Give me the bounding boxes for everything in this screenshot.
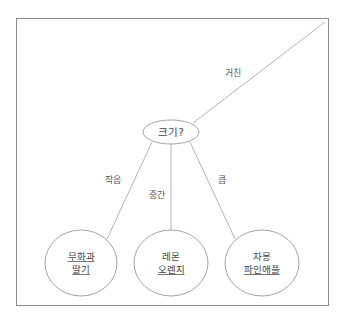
leaf-label-medium-line1: 레몬 bbox=[158, 250, 185, 263]
edge-label-medium: 중간 bbox=[149, 190, 165, 201]
edge-rough bbox=[193, 22, 325, 123]
leaf-label-small-line2: 딸기 bbox=[68, 263, 95, 276]
edge-label-rough: 거친 bbox=[225, 68, 241, 79]
leaf-label-large-line1: 자몽 bbox=[244, 250, 280, 263]
leaf-label-large-line2: 파인애플 bbox=[244, 263, 280, 276]
root-node-label: 크기? bbox=[158, 126, 184, 139]
edge-small bbox=[107, 142, 152, 239]
edge-label-large: 큼 bbox=[218, 175, 226, 186]
edge-label-small: 작음 bbox=[105, 175, 121, 186]
leaf-label-large: 자몽 파인애플 bbox=[244, 250, 280, 276]
leaf-label-medium-line2: 오렌지 bbox=[158, 263, 185, 276]
leaf-label-small: 무화과 딸기 bbox=[68, 250, 95, 276]
edge-large bbox=[190, 142, 235, 239]
leaf-label-medium: 레몬 오렌지 bbox=[158, 250, 185, 276]
leaf-label-small-line1: 무화과 bbox=[68, 250, 95, 263]
